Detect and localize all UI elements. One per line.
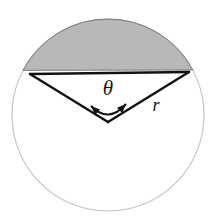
circular-segment-figure: θ r xyxy=(0,0,213,222)
figure-canvas: θ r xyxy=(0,0,213,222)
radius-label: r xyxy=(152,95,160,115)
theta-label: θ xyxy=(103,76,113,100)
